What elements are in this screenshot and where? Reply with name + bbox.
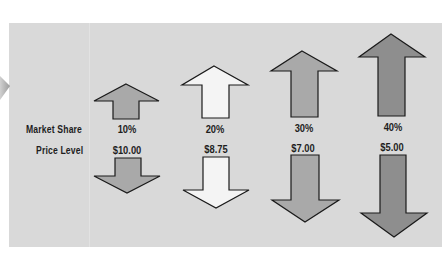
up-arrow-10-icon bbox=[94, 84, 159, 119]
market-share-value-4: 40% bbox=[368, 121, 419, 133]
market-share-value-3: 30% bbox=[279, 122, 330, 134]
down-arrow-10-icon bbox=[94, 158, 160, 193]
price-level-value-2: $8.75 bbox=[191, 143, 242, 155]
price-level-value-1: $10.00 bbox=[102, 144, 153, 156]
price-level-value-3: $7.00 bbox=[278, 142, 329, 154]
up-arrow-40-icon bbox=[359, 34, 425, 116]
price-level-value-4: $5.00 bbox=[367, 141, 418, 153]
up-arrow-30-icon bbox=[271, 51, 337, 117]
price-level-label: Price Level bbox=[36, 144, 83, 156]
up-arrow-20-icon bbox=[182, 66, 248, 118]
down-arrow-20-icon bbox=[183, 157, 249, 208]
market-share-label: Market Share bbox=[26, 123, 82, 135]
down-arrow-30-icon bbox=[272, 155, 339, 222]
down-arrow-40-icon bbox=[361, 155, 427, 237]
market-share-value-2: 20% bbox=[190, 123, 241, 135]
market-share-value-1: 10% bbox=[102, 123, 153, 135]
